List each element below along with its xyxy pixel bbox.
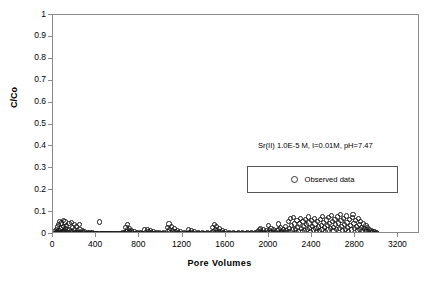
- legend-item-observed-data: Observed data: [248, 167, 397, 192]
- y-tick-label: 0.2: [20, 185, 46, 194]
- x-tick-label: 2400: [291, 240, 331, 249]
- x-tick-mark: [182, 233, 183, 237]
- x-tick-label: 800: [118, 240, 158, 249]
- y-tick-label: 0.5: [20, 119, 46, 128]
- y-tick-label: 1: [20, 10, 46, 19]
- x-tick-mark: [354, 233, 355, 237]
- x-tick-label: 0: [32, 240, 72, 249]
- y-tick-label: 0: [20, 229, 46, 238]
- x-axis-label: Pore Volumes: [0, 258, 439, 268]
- x-tick-label: 2000: [248, 240, 288, 249]
- legend-item-label: Observed data: [305, 176, 355, 184]
- chart-annotation: Sr(II) 1.0E-5 M, I=0.01M, pH=7.47: [258, 141, 373, 150]
- x-tick-mark: [397, 233, 398, 237]
- data-point: [350, 212, 355, 217]
- y-tick-label: 0.8: [20, 53, 46, 62]
- x-tick-mark: [95, 233, 96, 237]
- x-tick-mark: [268, 233, 269, 237]
- x-tick-label: 1200: [162, 240, 202, 249]
- x-tick-label: 1600: [205, 240, 245, 249]
- y-tick-label: 0.3: [20, 163, 46, 172]
- y-axis-label: C/Co: [9, 87, 19, 108]
- chart-legend: Observed data: [247, 166, 398, 193]
- x-tick-label: 2800: [334, 240, 374, 249]
- y-tick-label: 0.1: [20, 207, 46, 216]
- data-point: [97, 219, 102, 224]
- plot-area: [52, 14, 419, 233]
- data-points-layer: [53, 15, 418, 232]
- open-circle-marker-icon: [291, 176, 298, 183]
- y-tick-label: 0.4: [20, 141, 46, 150]
- x-tick-mark: [225, 233, 226, 237]
- x-tick-mark: [311, 233, 312, 237]
- x-tick-label: 400: [75, 240, 115, 249]
- data-point: [375, 231, 380, 232]
- x-tick-label: 3200: [377, 240, 417, 249]
- y-tick-label: 0.6: [20, 97, 46, 106]
- x-tick-mark: [52, 233, 53, 237]
- x-tick-mark: [138, 233, 139, 237]
- chart-figure: C/Co 00.10.20.30.40.50.60.70.80.91 04008…: [0, 0, 439, 284]
- y-tick-label: 0.9: [20, 31, 46, 40]
- y-tick-label: 0.7: [20, 75, 46, 84]
